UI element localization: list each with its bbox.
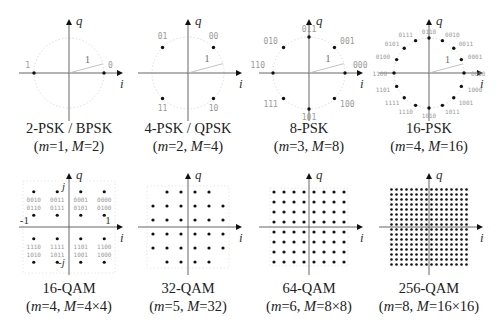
constellation-point bbox=[342, 240, 345, 243]
constellation-point bbox=[103, 237, 106, 240]
constellation-point bbox=[302, 190, 305, 193]
constellation-point bbox=[207, 190, 210, 193]
radius-label: 1 bbox=[85, 53, 91, 65]
constellation-point bbox=[420, 228, 423, 231]
caption-qpsk: 4-PSK / QPSK (m=2, M=4) bbox=[125, 121, 251, 153]
bit-label: 0010 bbox=[445, 31, 460, 38]
radius-line bbox=[69, 64, 103, 73]
caption-params: (m=1, M=2) bbox=[6, 139, 132, 154]
caption-title: 64-QAM bbox=[246, 281, 372, 296]
constellation-point bbox=[425, 193, 428, 196]
constellation-point bbox=[395, 213, 398, 216]
constellation-point bbox=[322, 200, 325, 203]
constellation-point bbox=[465, 228, 468, 231]
constellation-point bbox=[445, 208, 448, 211]
constellation-point bbox=[390, 213, 393, 216]
constellation-point bbox=[400, 263, 403, 266]
constellation-point bbox=[400, 253, 403, 256]
constellation-point bbox=[79, 237, 82, 240]
constellation-point bbox=[460, 253, 463, 256]
constellation-point bbox=[221, 246, 224, 249]
constellation-point bbox=[400, 188, 403, 191]
constellation-point bbox=[332, 220, 335, 223]
constellation-point bbox=[322, 260, 325, 263]
constellation-point bbox=[415, 208, 418, 211]
constellation-point bbox=[161, 97, 164, 100]
constellation-point bbox=[165, 204, 168, 207]
caption-title: 256-QAM bbox=[366, 281, 492, 296]
bit-label: 0000 bbox=[471, 70, 486, 77]
constellation-point bbox=[425, 198, 428, 201]
constellation-point bbox=[435, 193, 438, 196]
constellation-point bbox=[390, 188, 393, 191]
constellation-point bbox=[445, 243, 448, 246]
constellation-point bbox=[430, 223, 433, 226]
constellation-point bbox=[450, 258, 453, 261]
constellation-point bbox=[420, 243, 423, 246]
constellation-point bbox=[455, 233, 458, 236]
constellation-point bbox=[151, 204, 154, 207]
constellation-point bbox=[292, 210, 295, 213]
constellation-point bbox=[425, 228, 428, 231]
constellation-point bbox=[221, 204, 224, 207]
constellation-point bbox=[440, 253, 443, 256]
bit-label: 1101 bbox=[74, 243, 89, 250]
constellation-point bbox=[390, 258, 393, 261]
bit-label: 11 bbox=[158, 104, 168, 113]
constellation-point bbox=[430, 253, 433, 256]
bit-label: 0110 bbox=[422, 28, 437, 35]
constellation-point bbox=[405, 258, 408, 261]
constellation-point bbox=[455, 213, 458, 216]
constellation-point bbox=[312, 230, 315, 233]
constellation-point bbox=[450, 228, 453, 231]
constellation-point bbox=[460, 243, 463, 246]
caption-title: 2-PSK / BPSK bbox=[6, 121, 132, 136]
caption-title: 16-PSK bbox=[366, 121, 492, 136]
constellation-point bbox=[440, 188, 443, 191]
constellation-point bbox=[420, 263, 423, 266]
caption-params: (m=5, M=32) bbox=[125, 299, 251, 314]
constellation-point bbox=[435, 263, 438, 266]
i-axis-label: i bbox=[360, 230, 364, 245]
constellation-point bbox=[465, 213, 468, 216]
constellation-point bbox=[302, 210, 305, 213]
i-axis-label: i bbox=[239, 76, 243, 91]
constellation-point bbox=[455, 198, 458, 201]
constellation-point bbox=[165, 260, 168, 263]
constellation-point bbox=[165, 232, 168, 235]
panel-16qam: qi00100011000100000110011101010100111011… bbox=[19, 167, 124, 275]
constellation-point bbox=[427, 36, 430, 39]
bit-label: 011 bbox=[302, 25, 317, 34]
q-axis-arrow-icon bbox=[426, 19, 432, 25]
constellation-point bbox=[455, 258, 458, 261]
constellation-point bbox=[405, 213, 408, 216]
bit-label: 0000 bbox=[97, 196, 112, 203]
tick-label-neg-j: -j bbox=[58, 256, 65, 268]
constellation-point bbox=[435, 253, 438, 256]
constellation-point bbox=[435, 228, 438, 231]
constellation-point bbox=[415, 193, 418, 196]
constellation-point bbox=[322, 230, 325, 233]
constellation-point bbox=[440, 198, 443, 201]
constellation-point bbox=[420, 203, 423, 206]
constellation-point bbox=[435, 213, 438, 216]
constellation-point bbox=[430, 188, 433, 191]
constellation-point bbox=[445, 258, 448, 261]
constellation-point bbox=[400, 248, 403, 251]
q-axis-label: q bbox=[195, 13, 202, 28]
constellation-point bbox=[212, 97, 215, 100]
constellation-point bbox=[332, 230, 335, 233]
constellation-point bbox=[455, 188, 458, 191]
constellation-point bbox=[450, 218, 453, 221]
bit-label: 1111 bbox=[385, 99, 400, 106]
constellation-point bbox=[342, 230, 345, 233]
caption-bpsk: 2-PSK / BPSK (m=1, M=2) bbox=[6, 121, 132, 153]
constellation-point bbox=[32, 71, 35, 74]
constellation-point bbox=[425, 253, 428, 256]
caption-params: (m=4, M=16) bbox=[366, 139, 492, 154]
constellation-point bbox=[400, 198, 403, 201]
tick-label-neg-one: -1 bbox=[20, 214, 29, 226]
constellation-point bbox=[460, 258, 463, 261]
constellation-point bbox=[450, 263, 453, 266]
constellation-point bbox=[403, 96, 406, 99]
